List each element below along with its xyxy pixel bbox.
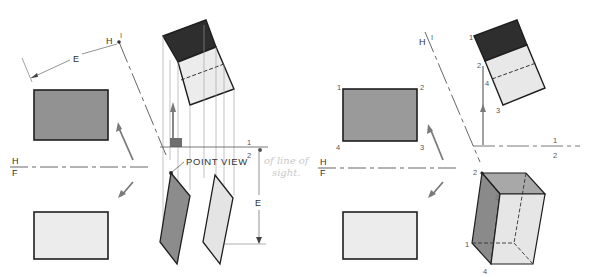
auxiliary-view-2-prism: 2 3 1 4 [465,168,545,276]
fold-label-h-top-right: H [419,37,426,47]
corner-label-1: 1 [337,83,341,92]
auxiliary-view-1-left [163,20,234,105]
fold-label-2-right-panel: 2 [553,151,557,160]
point-view-arrow-right [480,66,486,145]
hf-fold-line-right: H F [318,157,458,178]
h1-fold-line-left: H I [106,31,166,155]
aux2-corner-label-3: 3 [495,193,499,202]
handwritten-note-line-1: of line of [264,155,311,166]
dimension-e-top: E [22,44,117,82]
dimension-label-e-right: E [255,198,261,208]
fold-label-f-right-panel: F [320,168,326,178]
aux1-corner-label-1: 1 [469,33,473,42]
dimension-label-e-top: E [73,54,79,64]
fold-label-1-top-right: I [431,33,433,42]
12-fold-line-right: 1 2 [473,136,580,160]
aux2-corner-label-1: 1 [465,240,469,249]
h1-fold-line-right: H I [419,32,480,162]
aux2-corner-label-4: 4 [483,267,487,276]
corner-label-2: 2 [420,83,424,92]
front-view-rectangle [34,212,108,259]
fold-label-h-right-panel: H [320,157,327,167]
fold-label-1-right-panel: 1 [553,136,557,145]
fold-label-1-right: 1 [247,138,251,147]
fold-label-f: F [12,168,18,178]
corner-label-4: 4 [336,143,340,152]
fold-label-h: H [12,156,19,166]
handwritten-note-line-2: sight. [272,167,300,178]
fold-label-h-top: H [106,36,113,46]
handwritten-note: of line of sight. [264,155,311,178]
descriptive-geometry-figure: H F H I E [0,0,591,277]
aux1-corner-label-2: 2 [477,61,481,70]
front-view-rectangle-right [343,212,417,259]
left-panel: H F H I E [10,20,311,264]
point-view-label: POINT VIEW [186,156,248,167]
corner-label-3: 3 [420,143,424,152]
top-view-rectangle-right [343,89,417,141]
hf-fold-line-left: H F [10,156,152,178]
top-view-rectangle [34,90,108,140]
aux1-corner-label-4: 4 [485,79,489,88]
line-of-sight-arrows-left [116,122,133,198]
right-panel: H F 1 2 3 4 H I 1 2 3 [318,20,580,276]
point-view-callout: POINT VIEW 2 [169,151,249,175]
point-view-indicator [170,102,182,147]
fold-label-1-top: I [120,31,122,40]
line-of-sight-arrows-right [427,124,443,198]
auxiliary-view-1-right: 1 2 3 4 [469,20,545,115]
auxiliary-view-2-left [160,173,233,264]
aux2-corner-label-2: 2 [473,168,477,177]
aux1-corner-label-3: 3 [496,106,500,115]
